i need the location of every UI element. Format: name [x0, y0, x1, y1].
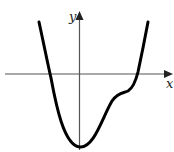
- y-axis-label: y: [68, 9, 77, 24]
- function-curve: [39, 22, 148, 147]
- function-graph: x y: [0, 0, 174, 152]
- x-axis: [5, 70, 173, 78]
- x-axis-label: x: [166, 76, 174, 91]
- y-axis: [76, 11, 84, 150]
- y-axis-arrow-icon: [76, 11, 84, 20]
